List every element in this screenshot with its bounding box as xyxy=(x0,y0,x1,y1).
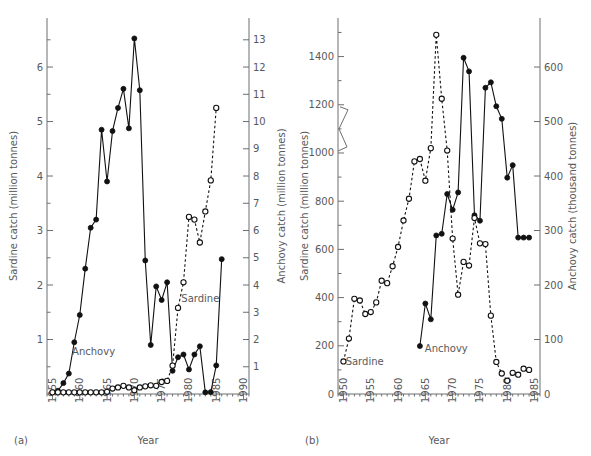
data-point-sardine xyxy=(61,390,66,395)
data-point-sardine xyxy=(488,313,493,318)
data-point-sardine xyxy=(148,383,153,388)
data-point-sardine xyxy=(368,309,373,314)
data-point-sardine xyxy=(385,281,390,286)
svg-text:1960: 1960 xyxy=(393,378,404,403)
data-point-anchovy xyxy=(154,284,159,289)
annotation-anchovy: Anchovy xyxy=(425,343,468,354)
data-point-sardine xyxy=(99,390,104,395)
data-point-sardine xyxy=(352,296,357,301)
data-point-anchovy xyxy=(505,175,510,180)
data-point-sardine xyxy=(346,336,351,341)
data-point-sardine xyxy=(192,217,197,222)
data-point-anchovy xyxy=(428,317,433,322)
data-point-sardine xyxy=(159,379,164,384)
data-point-anchovy xyxy=(192,352,197,357)
svg-text:6: 6 xyxy=(253,225,259,236)
data-point-sardine xyxy=(165,378,170,383)
data-point-anchovy xyxy=(483,85,488,90)
data-point-sardine xyxy=(126,385,131,390)
data-point-sardine xyxy=(175,305,180,310)
data-point-sardine xyxy=(203,209,208,214)
data-point-sardine xyxy=(154,383,159,388)
data-point-anchovy xyxy=(72,340,77,345)
data-point-sardine xyxy=(143,384,148,389)
svg-text:8: 8 xyxy=(253,171,259,182)
data-point-sardine xyxy=(208,178,213,183)
data-point-sardine xyxy=(77,390,82,395)
svg-text:1970: 1970 xyxy=(447,378,458,403)
svg-text:1975: 1975 xyxy=(474,378,485,403)
data-point-anchovy xyxy=(143,258,148,263)
svg-text:200: 200 xyxy=(315,340,334,351)
data-point-anchovy xyxy=(61,381,66,386)
svg-text:600: 600 xyxy=(544,62,563,73)
data-point-anchovy xyxy=(516,235,521,240)
data-point-sardine xyxy=(104,389,109,394)
svg-text:100: 100 xyxy=(544,334,563,345)
svg-text:3: 3 xyxy=(37,225,43,236)
svg-text:300: 300 xyxy=(544,225,563,236)
data-point-sardine xyxy=(197,240,202,245)
data-point-sardine xyxy=(186,214,191,219)
data-point-sardine xyxy=(461,259,466,264)
data-point-sardine xyxy=(132,388,137,393)
svg-text:7: 7 xyxy=(253,198,259,209)
data-point-anchovy xyxy=(423,301,428,306)
data-point-sardine xyxy=(510,370,515,375)
data-point-anchovy xyxy=(197,344,202,349)
data-point-sardine xyxy=(170,363,175,368)
svg-text:1980: 1980 xyxy=(183,378,194,403)
data-point-anchovy xyxy=(105,179,110,184)
svg-text:Sardine catch (million tonnes): Sardine catch (million tonnes) xyxy=(299,131,310,281)
svg-text:(b): (b) xyxy=(305,435,319,446)
data-point-sardine xyxy=(516,372,521,377)
data-point-anchovy xyxy=(521,235,526,240)
data-point-sardine xyxy=(363,311,368,316)
annotation-sardine: Sardine xyxy=(346,356,384,367)
svg-text:200: 200 xyxy=(544,280,563,291)
data-point-sardine xyxy=(83,390,88,395)
data-point-anchovy xyxy=(137,88,142,93)
data-point-anchovy xyxy=(77,312,82,317)
data-point-sardine xyxy=(121,383,126,388)
annotation-anchovy: Anchovy xyxy=(72,346,115,357)
svg-text:0: 0 xyxy=(328,389,334,400)
data-point-sardine xyxy=(494,359,499,364)
annotation-sardine: Sardine xyxy=(181,293,219,304)
svg-text:(a): (a) xyxy=(14,435,28,446)
data-point-sardine xyxy=(466,263,471,268)
data-point-anchovy xyxy=(99,127,104,132)
data-point-sardine xyxy=(434,32,439,37)
data-point-anchovy xyxy=(461,55,466,60)
svg-text:1965: 1965 xyxy=(420,378,431,403)
svg-text:5: 5 xyxy=(253,252,259,263)
series-line-anchovy xyxy=(420,58,529,346)
data-point-sardine xyxy=(55,390,60,395)
svg-text:Anchovy catch (million tonnes): Anchovy catch (million tonnes) xyxy=(276,128,287,283)
data-point-sardine xyxy=(521,366,526,371)
svg-text:5: 5 xyxy=(37,116,43,127)
data-point-sardine xyxy=(214,105,219,110)
data-point-sardine xyxy=(439,96,444,101)
data-point-anchovy xyxy=(527,235,532,240)
data-point-sardine xyxy=(115,385,120,390)
data-point-anchovy xyxy=(417,344,422,349)
figure-container: 1955196019651970197519801985199012345612… xyxy=(0,0,591,456)
svg-text:1000: 1000 xyxy=(309,147,334,158)
data-point-sardine xyxy=(357,298,362,303)
svg-text:Sardine catch (million tonnes): Sardine catch (million tonnes) xyxy=(8,131,19,281)
data-point-sardine xyxy=(94,390,99,395)
svg-text:400: 400 xyxy=(544,171,563,182)
svg-text:11: 11 xyxy=(253,89,266,100)
data-point-sardine xyxy=(412,159,417,164)
svg-text:600: 600 xyxy=(315,244,334,255)
data-point-anchovy xyxy=(488,80,493,85)
data-point-anchovy xyxy=(83,266,88,271)
data-point-sardine xyxy=(181,280,186,285)
data-point-sardine xyxy=(406,196,411,201)
data-point-anchovy xyxy=(121,86,126,91)
data-point-sardine xyxy=(423,178,428,183)
svg-text:1200: 1200 xyxy=(309,99,334,110)
svg-text:Anchovy catch (thousand tonnes: Anchovy catch (thousand tonnes) xyxy=(567,122,578,291)
data-point-anchovy xyxy=(176,355,181,360)
